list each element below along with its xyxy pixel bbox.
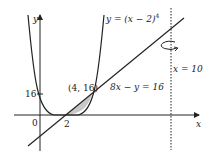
intersection-label: (4, 16) <box>68 83 98 93</box>
axis-of-rotation-label: x = 10 <box>173 64 203 74</box>
curve-equation-label: y = (x − 2)4 <box>105 12 159 24</box>
rotation-arrow-icon <box>161 41 178 51</box>
y-tick-label-16: 16 <box>25 89 37 99</box>
line-equation-label: 8x − y = 16 <box>110 82 164 92</box>
x-axis-label: x <box>196 119 201 129</box>
y-axis-label: y <box>32 14 39 24</box>
x-tick-label-2: 2 <box>64 119 70 129</box>
quartic-curve <box>28 15 104 115</box>
origin-label: 0 <box>32 118 38 128</box>
curve-equation-exponent: 4 <box>155 12 159 19</box>
curve-equation-base: y = (x − 2) <box>105 14 156 24</box>
graph-diagram: y x 0 2 16 (4, 16) 8x − y = 16 x = 10 y … <box>0 0 217 159</box>
